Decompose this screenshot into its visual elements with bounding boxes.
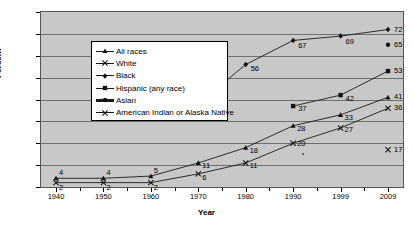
data-point-marker: [102, 110, 107, 115]
data-point-label: 67: [298, 41, 306, 50]
x-tick-label: 1999: [321, 192, 361, 201]
legend-label: American Indian or Alaska Native: [116, 108, 234, 117]
data-point-label: 28: [297, 124, 305, 133]
data-point-marker: [338, 33, 343, 39]
data-point-label: 37: [298, 104, 306, 113]
legend-item-white[interactable]: White: [96, 57, 223, 69]
series-line: [293, 71, 388, 106]
plot-area: 4451118283341222611202736385667697237425…: [40, 11, 404, 188]
data-point-label: 2: [154, 183, 158, 192]
data-point-marker: [386, 27, 391, 33]
data-point-marker: [103, 73, 108, 79]
chart-legend: All racesWhiteBlackHispanic (any race)As…: [91, 41, 228, 121]
legend-item-hispanic-any-race[interactable]: Hispanic (any race): [96, 82, 223, 94]
y-axis-title: Percent: [0, 49, 3, 78]
legend-marker-icon: [96, 71, 114, 81]
x-tick-label: 1940: [36, 192, 76, 201]
legend-label: Black: [116, 71, 136, 80]
data-point-marker: [243, 145, 248, 150]
data-point-label: 72: [394, 25, 402, 34]
data-point-marker: [385, 106, 390, 111]
data-point-label: 69: [346, 37, 354, 46]
data-point-label: 27: [345, 125, 353, 134]
data-point-label: 6: [202, 173, 206, 182]
x-tick-label: 1990: [273, 192, 313, 201]
data-point-label: 20: [297, 139, 305, 148]
legend-marker-icon: [96, 83, 114, 93]
data-point-marker: [102, 49, 107, 54]
legend-marker-icon: [96, 58, 114, 68]
data-point-label: 11: [202, 161, 210, 170]
legend-label: All races: [116, 47, 147, 56]
legend-label: Hispanic (any race): [116, 84, 185, 93]
x-tick-label: 1960: [131, 192, 171, 201]
x-axis-title: Year: [0, 208, 413, 217]
data-point-label: 18: [250, 146, 258, 155]
legend-label: White: [116, 59, 136, 68]
data-point-marker: [291, 38, 296, 44]
legend-label: Asian: [116, 96, 136, 105]
x-tick-label: 1970: [178, 192, 218, 201]
data-point-label: 2: [59, 183, 63, 192]
data-point-marker: [385, 147, 390, 152]
data-point-label: 41: [394, 92, 402, 101]
data-point-marker: [103, 86, 107, 90]
data-point-label: 65: [394, 40, 402, 49]
legend-marker-icon: [96, 46, 114, 56]
stray-dot-artifact: [302, 153, 304, 155]
data-point-label: 17: [394, 145, 402, 154]
data-point-label: 5: [154, 166, 158, 175]
data-point-marker: [291, 141, 296, 146]
x-tick-label: 2009: [368, 192, 408, 201]
data-point-marker: [386, 69, 390, 73]
data-point-marker: [386, 43, 390, 47]
data-point-label: 53: [394, 66, 402, 75]
legend-marker-icon: [96, 95, 114, 105]
data-point-label: 56: [251, 64, 259, 73]
data-point-label: 4: [59, 168, 63, 177]
data-point-label: 36: [394, 103, 402, 112]
data-point-label: 2: [106, 183, 110, 192]
data-point-marker: [338, 93, 342, 97]
data-point-marker: [338, 125, 343, 130]
x-tick-label: 1980: [226, 192, 266, 201]
legend-item-all-races[interactable]: All races: [96, 45, 223, 57]
data-point-marker: [291, 104, 295, 108]
data-point-label: 33: [345, 113, 353, 122]
data-point-label: 42: [346, 94, 354, 103]
chart-figure: Percent 01020304050607080 19401950196019…: [0, 0, 413, 229]
legend-item-asian[interactable]: Asian: [96, 94, 223, 106]
data-point-marker: [103, 98, 107, 102]
data-point-marker: [385, 95, 390, 100]
legend-item-american-indian-or-alaska-native[interactable]: American Indian or Alaska Native: [96, 106, 223, 118]
data-point-label: 11: [250, 161, 258, 170]
legend-marker-icon: [96, 108, 114, 118]
data-point-label: 4: [106, 168, 110, 177]
x-tick-label: 1950: [83, 192, 123, 201]
data-point-marker: [102, 61, 107, 66]
legend-item-black[interactable]: Black: [96, 70, 223, 82]
